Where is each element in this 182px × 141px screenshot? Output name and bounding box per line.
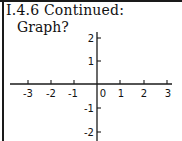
y-tick-label: 1 <box>88 56 94 67</box>
y-tick-label: -2 <box>84 127 94 138</box>
x-tick-label: -1 <box>68 88 78 99</box>
y-tick-label: -1 <box>84 103 94 114</box>
x-tick-label: 1 <box>118 88 124 99</box>
y-tick-label: 2 <box>88 33 94 44</box>
x-tick-label: 0 <box>100 88 106 99</box>
x-tick-label: -3 <box>23 88 33 99</box>
x-tick-label: 3 <box>165 88 171 99</box>
x-tick-label: -2 <box>46 88 56 99</box>
x-tick-label: 2 <box>141 88 147 99</box>
coordinate-axes: -3 -2 -1 0 1 2 3 2 1 -1 -2 <box>0 0 182 141</box>
slide-frame: I.4.6 Continued: Graph? -3 -2 -1 0 1 2 <box>0 0 182 141</box>
